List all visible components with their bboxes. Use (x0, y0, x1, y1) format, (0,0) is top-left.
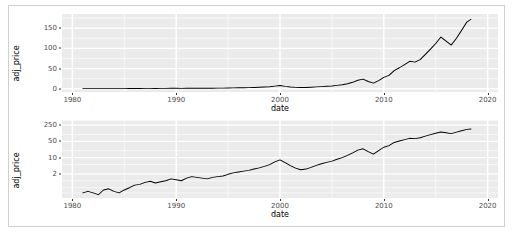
y-tick-mark (59, 68, 61, 69)
x-tick-label: 1980 (63, 202, 81, 210)
y-tick-label: 50 (48, 65, 57, 73)
y-tick-mark (59, 125, 61, 126)
y-axis-title-linear: adj_price (9, 8, 23, 118)
price-line-log (83, 129, 471, 195)
x-tick-mark (72, 199, 73, 201)
x-tick-label: 1980 (63, 96, 81, 104)
x-tick-label: 2010 (375, 202, 393, 210)
y-tick-label: 150 (44, 24, 57, 32)
x-tick-mark (488, 93, 489, 95)
x-tick-label: 2010 (375, 96, 393, 104)
y-tick-label: 0 (53, 85, 57, 93)
x-tick-label: 1990 (167, 202, 185, 210)
y-axis-title-log: adj_price (9, 114, 23, 226)
x-tick-mark (176, 93, 177, 95)
page-root: adj_price 050100150 19801990200020102020… (0, 0, 513, 238)
y-tick-label: 50 (48, 137, 57, 145)
x-tick-mark (384, 199, 385, 201)
page-frame: adj_price 050100150 19801990200020102020… (8, 5, 505, 227)
x-tick-mark (176, 199, 177, 201)
price-line-linear (83, 19, 471, 88)
y-tick-mark (59, 157, 61, 158)
x-axis-title-linear: date (62, 104, 498, 113)
y-tick-mark (59, 28, 61, 29)
log-chart-svg (62, 120, 498, 198)
x-tick-mark (384, 93, 385, 95)
x-tick-mark (488, 199, 489, 201)
gridlines-major-log (62, 120, 498, 198)
plot-panel-log (62, 120, 498, 198)
x-tick-label: 2020 (479, 96, 497, 104)
linear-chart-svg (62, 14, 498, 92)
x-tick-label: 2000 (271, 96, 289, 104)
x-tick-mark (280, 93, 281, 95)
gridlines-major-linear (62, 14, 498, 92)
y-tick-label: 2 (53, 170, 57, 178)
y-tick-mark (59, 48, 61, 49)
x-tick-label: 1990 (167, 96, 185, 104)
x-tick-label: 2000 (271, 202, 289, 210)
y-tick-labels-linear: 050100150 (23, 8, 61, 118)
log-price-chart: adj_price 21050250 19801990200020102020 … (9, 114, 506, 226)
y-tick-mark (59, 88, 61, 89)
x-tick-label: 2020 (479, 202, 497, 210)
plot-panel-linear (62, 14, 498, 92)
y-tick-mark (59, 141, 61, 142)
y-tick-label: 10 (48, 154, 57, 162)
y-tick-labels-log: 21050250 (23, 114, 61, 226)
y-tick-label: 100 (44, 44, 57, 52)
y-tick-mark (59, 173, 61, 174)
x-tick-mark (72, 93, 73, 95)
linear-price-chart: adj_price 050100150 19801990200020102020… (9, 8, 506, 118)
x-tick-mark (280, 199, 281, 201)
y-tick-label: 250 (44, 121, 57, 129)
x-axis-title-log: date (62, 210, 498, 219)
